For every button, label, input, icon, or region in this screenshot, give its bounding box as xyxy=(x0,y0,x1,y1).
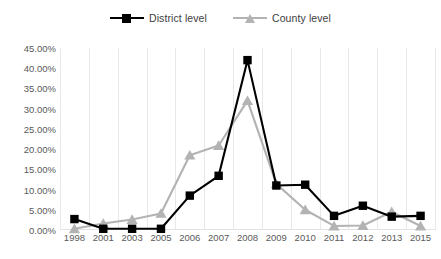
data-point-square-icon xyxy=(272,181,280,189)
legend-label-county: County level xyxy=(272,12,331,24)
x-axis-tick-label: 2001 xyxy=(93,232,114,243)
x-axis: 1998200120032005200620072008200920102011… xyxy=(60,232,435,250)
gridline-vertical xyxy=(435,48,436,230)
x-axis-tick-label: 2006 xyxy=(179,232,200,243)
legend-label-district: District level xyxy=(149,12,207,24)
series-district-level xyxy=(70,56,425,233)
x-axis-tick-label: 2003 xyxy=(122,232,143,243)
x-axis-tick-label: 2009 xyxy=(266,232,287,243)
legend-item-county[interactable]: County level xyxy=(233,12,331,24)
data-point-triangle-icon xyxy=(415,221,426,231)
data-point-triangle-icon xyxy=(213,140,224,150)
data-point-square-icon xyxy=(214,172,222,180)
legend-marker-triangle-icon xyxy=(245,14,255,23)
legend-marker-square-icon xyxy=(122,14,131,23)
series-line xyxy=(74,101,420,229)
legend-key-district xyxy=(110,12,144,24)
x-axis-tick-label: 2012 xyxy=(352,232,373,243)
y-axis-tick-label: 0.00% xyxy=(29,225,56,236)
data-point-square-icon xyxy=(359,202,367,210)
data-point-square-icon xyxy=(416,212,424,220)
y-axis: 0.00%5.00%10.00%15.00%20.00%25.00%30.00%… xyxy=(0,0,56,259)
y-axis-tick-label: 45.00% xyxy=(24,43,56,54)
data-point-triangle-icon xyxy=(242,95,253,105)
y-axis-tick-label: 5.00% xyxy=(29,204,56,215)
legend-key-county xyxy=(233,12,267,24)
data-point-square-icon xyxy=(388,212,396,220)
y-axis-tick-label: 20.00% xyxy=(24,144,56,155)
data-point-square-icon xyxy=(243,56,251,64)
x-axis-tick-label: 2005 xyxy=(150,232,171,243)
y-axis-tick-label: 40.00% xyxy=(24,63,56,74)
x-axis-tick-label: 2011 xyxy=(324,232,344,243)
series-layer xyxy=(60,48,435,230)
x-axis-tick-label: 2015 xyxy=(410,232,431,243)
data-point-square-icon xyxy=(330,212,338,220)
y-axis-tick-label: 15.00% xyxy=(24,164,56,175)
x-axis-tick-label: 1998 xyxy=(64,232,85,243)
data-point-square-icon xyxy=(301,181,309,189)
series-line xyxy=(74,60,420,229)
y-axis-tick-label: 25.00% xyxy=(24,123,56,134)
x-axis-tick-label: 2010 xyxy=(295,232,316,243)
series-county-level xyxy=(69,95,426,233)
x-axis-tick-label: 2007 xyxy=(208,232,229,243)
x-axis-tick-label: 2008 xyxy=(237,232,258,243)
data-point-square-icon xyxy=(186,191,194,199)
data-point-triangle-icon xyxy=(155,208,166,218)
y-axis-tick-label: 30.00% xyxy=(24,103,56,114)
data-point-square-icon xyxy=(70,215,78,223)
chart-legend: District level County level xyxy=(0,12,441,24)
plot-area xyxy=(60,48,435,230)
line-chart: District level County level 0.00%5.00%10… xyxy=(0,0,441,259)
x-axis-tick-label: 2013 xyxy=(381,232,402,243)
y-axis-tick-label: 35.00% xyxy=(24,83,56,94)
legend-item-district[interactable]: District level xyxy=(110,12,207,24)
y-axis-tick-label: 10.00% xyxy=(24,184,56,195)
